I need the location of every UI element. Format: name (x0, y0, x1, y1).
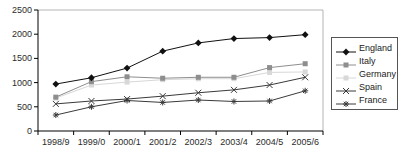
diamond-marker-icon (159, 48, 166, 55)
legend-swatch (335, 56, 359, 66)
series-france (53, 88, 308, 118)
legend-label: England (359, 43, 392, 53)
x-tick-label: 1999/0 (78, 137, 106, 147)
square-marker-icon (267, 65, 272, 70)
x-tick-label: 2000/1 (113, 137, 141, 147)
x-tick-label: 2005/6 (291, 137, 319, 147)
legend-swatch (335, 95, 359, 105)
diamond-marker-icon (52, 81, 59, 88)
star-marker-icon (343, 101, 349, 107)
y-tick-label: 500 (17, 102, 32, 112)
star-legend-icon (335, 99, 359, 109)
line-chart-figure: 050010001500200025001998/91999/02000/120… (0, 0, 404, 159)
x-tick-label: 2003/4 (220, 137, 248, 147)
legend-item-england: England (335, 41, 395, 54)
square-marker-icon (160, 76, 165, 81)
square-marker-icon (196, 75, 201, 80)
star-marker-icon (231, 98, 237, 104)
star-marker-icon (124, 98, 130, 104)
x-tick-label: 1998/9 (42, 137, 70, 147)
x-tick-label: 2001/2 (149, 137, 177, 147)
chart-legend: EnglandItalyGermanySpainFrance (331, 37, 398, 110)
diamond-marker-icon (124, 65, 131, 72)
square-marker-icon (53, 95, 58, 100)
legend-label: Germany (359, 69, 396, 79)
square-marker-icon (231, 75, 236, 80)
legend-swatch (335, 82, 359, 92)
star-marker-icon (302, 88, 308, 94)
diamond-marker-icon (266, 34, 273, 41)
star-marker-icon (267, 98, 273, 104)
legend-item-germany: Germany (335, 67, 395, 80)
legend-item-spain: Spain (335, 80, 395, 93)
star-marker-icon (53, 112, 59, 118)
legend-item-france: France (335, 93, 395, 106)
diamond-marker-icon (302, 31, 309, 38)
y-tick-label: 2000 (12, 29, 32, 39)
square-marker-icon (267, 70, 272, 75)
y-tick-label: 2500 (12, 5, 32, 15)
square-marker-icon (303, 61, 308, 66)
legend-swatch (335, 43, 359, 53)
y-tick-label: 1000 (12, 78, 32, 88)
star-marker-icon (160, 99, 166, 105)
y-tick-label: 0 (27, 126, 32, 136)
legend-label: Spain (359, 82, 382, 92)
square-marker-icon (125, 80, 130, 85)
square-marker-icon (303, 69, 308, 74)
star-marker-icon (195, 97, 201, 103)
x-tick-label: 2002/3 (185, 137, 213, 147)
x-tick-label: 2004/5 (256, 137, 284, 147)
legend-item-italy: Italy (335, 54, 395, 67)
star-marker-icon (88, 104, 94, 110)
diamond-marker-icon (195, 40, 202, 47)
legend-label: Italy (359, 56, 376, 66)
legend-swatch (335, 69, 359, 79)
diamond-marker-icon (231, 35, 238, 42)
y-tick-label: 1500 (12, 53, 32, 63)
square-marker-icon (125, 74, 130, 79)
legend-label: France (359, 95, 387, 105)
